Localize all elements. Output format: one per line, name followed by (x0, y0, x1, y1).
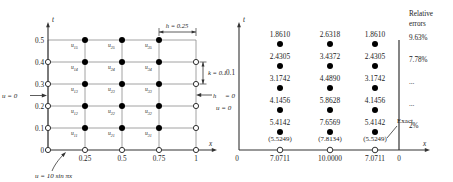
node-label-row-2: u12 u22 u32 (71, 108, 152, 116)
k-dimension-label: k = 0.1 (208, 69, 227, 76)
relative-errors-heading-line1: Relative (409, 10, 433, 18)
initial-value-2: 7.0711 (365, 154, 385, 163)
value-5-2: 1.8610 (365, 30, 386, 39)
node-label-row-3: u13 u23 u33 (71, 86, 152, 94)
node-label-u23: u23 (108, 86, 115, 94)
error-1: 2% (409, 122, 419, 130)
value-3-2: 3.1742 (365, 74, 386, 83)
exact-1-2: (5.5249) (363, 135, 387, 143)
figure-container: t x 0.5 0.4 0.3 0.2 0.1 0 0.25 0.5 0.75 … (0, 0, 453, 182)
left-boundary-arrow (30, 94, 47, 98)
node-label-u32: u32 (145, 108, 152, 116)
x-tick-0: 0.25 (79, 155, 92, 163)
exact-1-1: (7.8134) (318, 135, 342, 143)
node-label-u11: u11 (71, 130, 78, 138)
node-label-u34: u34 (145, 64, 152, 72)
value-row-2: 4.1456 5.8628 4.1456 (270, 96, 386, 105)
value-1-2: 5.4142 (365, 118, 386, 127)
error-2: ... (409, 100, 415, 108)
exact-callout-line (387, 126, 397, 138)
y-tick-0: 0.5 (35, 37, 44, 45)
y-tick-2: 0.3 (35, 81, 44, 89)
value-row-3: 3.1742 4.4890 3.1742 (270, 74, 386, 83)
right-boundary-partial: = 0 (225, 92, 235, 100)
initial-condition-callout-arrow (52, 152, 66, 171)
right-end-origin-label: 0 (397, 155, 401, 163)
node-label-u22: u22 (108, 108, 115, 116)
value-3-0: 3.1742 (270, 74, 291, 83)
y-tick-4: 0.1 (35, 125, 44, 133)
value-row-5: 1.8610 2.6318 1.8610 (270, 30, 386, 39)
value-4-2: 2.4305 (365, 52, 386, 61)
h-pointer-label: h (213, 92, 217, 99)
x-tick-2: 0.75 (153, 155, 166, 163)
value-4-0: 2.4305 (270, 52, 291, 61)
node-label-u33: u33 (145, 86, 152, 94)
relative-errors-values: 9.63% 7.78% ... ... 2% (409, 34, 428, 130)
node-label-row-5: u15 u25 u35 (71, 42, 152, 50)
left-y-axis-name: t (52, 16, 55, 24)
node-label-row-4: u14 u24 u34 (71, 64, 152, 72)
error-3: ... (409, 78, 415, 86)
error-4: 7.78% (409, 56, 428, 64)
initial-value-1: 10.0000 (318, 154, 342, 163)
right-y-axis-name: t (243, 16, 246, 24)
left-panel-svg: t x 0.5 0.4 0.3 0.2 0.1 0 0.25 0.5 0.75 … (0, 0, 227, 182)
k-dimension-arrow (200, 62, 207, 84)
value-1-0: 5.4142 (270, 118, 291, 127)
value-row-4: 2.4305 3.4372 2.4305 (270, 52, 386, 61)
right-axes (237, 22, 430, 152)
value-2-2: 4.1456 (365, 96, 386, 105)
right-panel-values-diagram: t x 0.1 = 0 0 0 (227, 0, 453, 182)
left-x-tick-labels: 0.25 0.5 0.75 1 (79, 155, 198, 163)
x-tick-1: 0.5 (118, 155, 127, 163)
y-tick-1: 0.4 (35, 59, 44, 67)
left-panel-grid-diagram: t x 0.5 0.4 0.3 0.2 0.1 0 0.25 0.5 0.75 … (0, 0, 227, 182)
node-label-u12: u12 (71, 108, 78, 116)
node-label-u31: u31 (145, 130, 152, 138)
h-dimension-arrow (159, 28, 196, 36)
node-label-u25: u25 (108, 42, 115, 50)
h-dimension-label: h = 0.25 (166, 22, 189, 29)
right-y-tick-partial: 0.1 (226, 69, 235, 77)
value-1-1: 7.6569 (320, 118, 341, 127)
left-x-axis-name: x (208, 140, 213, 148)
error-5: 9.63% (409, 34, 428, 42)
initial-value-0: 7.0711 (270, 154, 290, 163)
value-2-1: 5.8628 (320, 96, 341, 105)
value-3-1: 4.4890 (320, 74, 341, 83)
value-5-1: 2.6318 (320, 30, 341, 39)
node-label-u13: u13 (71, 86, 78, 94)
exact-1-0: (5.5249) (268, 135, 292, 143)
node-label-u15: u15 (71, 42, 78, 50)
node-label-u21: u21 (108, 130, 115, 138)
node-label-u14: u14 (71, 64, 78, 72)
value-2-0: 4.1456 (270, 96, 291, 105)
node-label-u24: u24 (108, 64, 115, 72)
initial-values-row: 7.0711 10.0000 7.0711 (270, 154, 385, 163)
right-panel-svg: t x 0.1 = 0 0 0 (227, 0, 453, 182)
y-tick-3: 0.2 (35, 103, 44, 111)
right-x-axis-name: x (422, 140, 427, 148)
initial-condition-label: u = 10 sin πx (35, 172, 73, 180)
y-tick-5: 0 (40, 147, 44, 155)
right-origin-label: 0 (235, 155, 239, 163)
left-boundary-label: u = 0 (2, 92, 18, 100)
value-4-1: 3.4372 (320, 52, 341, 61)
node-label-u35: u35 (145, 42, 152, 50)
x-tick-3: 1 (194, 155, 198, 163)
h-pointer-arrow (196, 93, 212, 97)
node-label-row-1: u11 u21 u31 (71, 130, 152, 138)
value-5-0: 1.8610 (270, 30, 291, 39)
relative-errors-heading-line2: errors (409, 20, 426, 28)
